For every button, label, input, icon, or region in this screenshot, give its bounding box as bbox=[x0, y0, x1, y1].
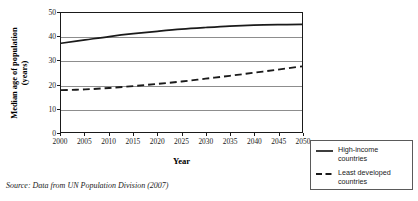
x-axis-ticks: 2000200520102015202020252030203520402045… bbox=[60, 133, 303, 151]
y-tick-label: 30 bbox=[30, 56, 56, 65]
solid-line-icon bbox=[316, 146, 333, 155]
x-axis-title: Year bbox=[60, 156, 303, 166]
x-tick-mark bbox=[303, 133, 304, 136]
dashed-line-icon bbox=[316, 169, 333, 178]
legend-label-least-developed: Least developed countries bbox=[338, 169, 408, 186]
x-tick-mark bbox=[84, 133, 85, 136]
legend-item-high-income: High-income countries bbox=[316, 146, 408, 163]
x-tick-mark bbox=[60, 133, 61, 136]
x-tick-mark bbox=[133, 133, 134, 136]
plot-area bbox=[60, 12, 303, 133]
series-least-developed-line bbox=[61, 66, 302, 90]
legend-label-high-income: High-income countries bbox=[338, 146, 408, 163]
y-axis-title-line2: (years) bbox=[20, 27, 30, 118]
series-lines bbox=[61, 13, 302, 132]
x-tick-mark bbox=[157, 133, 158, 136]
y-axis-title-line1: Median age of population bbox=[10, 27, 20, 118]
x-tick-mark bbox=[230, 133, 231, 136]
x-tick-mark bbox=[182, 133, 183, 136]
y-tick-label: 40 bbox=[30, 32, 56, 41]
source-note: Source: Data from UN Population Division… bbox=[6, 181, 169, 190]
x-tick-mark bbox=[254, 133, 255, 136]
y-tick-label: 50 bbox=[30, 8, 56, 17]
series-high-income-line bbox=[61, 24, 302, 43]
x-tick-mark bbox=[279, 133, 280, 136]
y-tick-label: 20 bbox=[30, 80, 56, 89]
chart-figure: Median age of population (years) 0102030… bbox=[0, 0, 418, 201]
y-tick-label: 10 bbox=[30, 104, 56, 113]
y-axis-ticks: 01020304050 bbox=[30, 0, 56, 145]
x-tick-mark bbox=[206, 133, 207, 136]
legend: High-income countries Least developed co… bbox=[310, 140, 413, 190]
x-tick-mark bbox=[109, 133, 110, 136]
legend-item-least-developed: Least developed countries bbox=[316, 169, 408, 186]
